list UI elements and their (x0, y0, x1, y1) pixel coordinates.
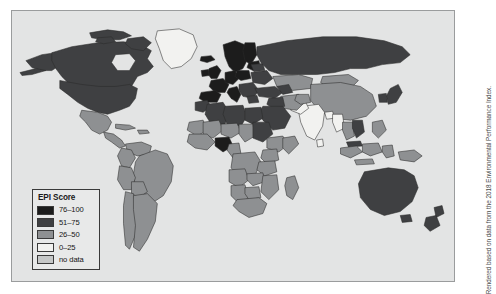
island-sri-lanka (317, 139, 324, 147)
legend-label-51-75: 51–75 (59, 219, 80, 227)
country-spain (199, 90, 221, 102)
legend-swatch-26-50 (37, 230, 54, 239)
source-caption: Rendered based on data from the 2018 Env… (485, 76, 492, 294)
epi-world-map-figure: EPI Score 76–100 51–75 26–50 0–25 no dat… (0, 0, 496, 294)
legend-swatch-76-100 (37, 206, 54, 215)
country-ireland (201, 70, 209, 77)
island-hispaniola (137, 130, 149, 134)
country-indonesia-java (354, 159, 374, 165)
legend-label-76-100: 76–100 (59, 206, 84, 214)
legend-swatch-no-data (37, 255, 54, 264)
legend-label-26-50: 26–50 (59, 231, 80, 239)
legend-item-51-75: 51–75 (37, 218, 95, 228)
legend-item-76-100: 76–100 (37, 205, 95, 215)
legend-item-0-25: 0–25 (37, 242, 95, 252)
legend-title: EPI Score (38, 194, 95, 202)
legend-swatch-51-75 (37, 218, 54, 227)
map-panel: EPI Score 76–100 51–75 26–50 0–25 no dat… (11, 10, 455, 282)
island-tasmania (400, 214, 412, 222)
map-legend: EPI Score 76–100 51–75 26–50 0–25 no dat… (32, 189, 100, 270)
legend-item-26-50: 26–50 (37, 230, 95, 240)
legend-item-no-data: no data (37, 255, 95, 265)
legend-label-no-data: no data (59, 256, 84, 264)
legend-label-0-25: 0–25 (59, 244, 76, 252)
country-korea (378, 93, 387, 102)
source-caption-container: Rendered based on data from the 2018 Env… (480, 0, 496, 294)
country-greece (247, 95, 259, 103)
legend-swatch-0-25 (37, 243, 54, 252)
